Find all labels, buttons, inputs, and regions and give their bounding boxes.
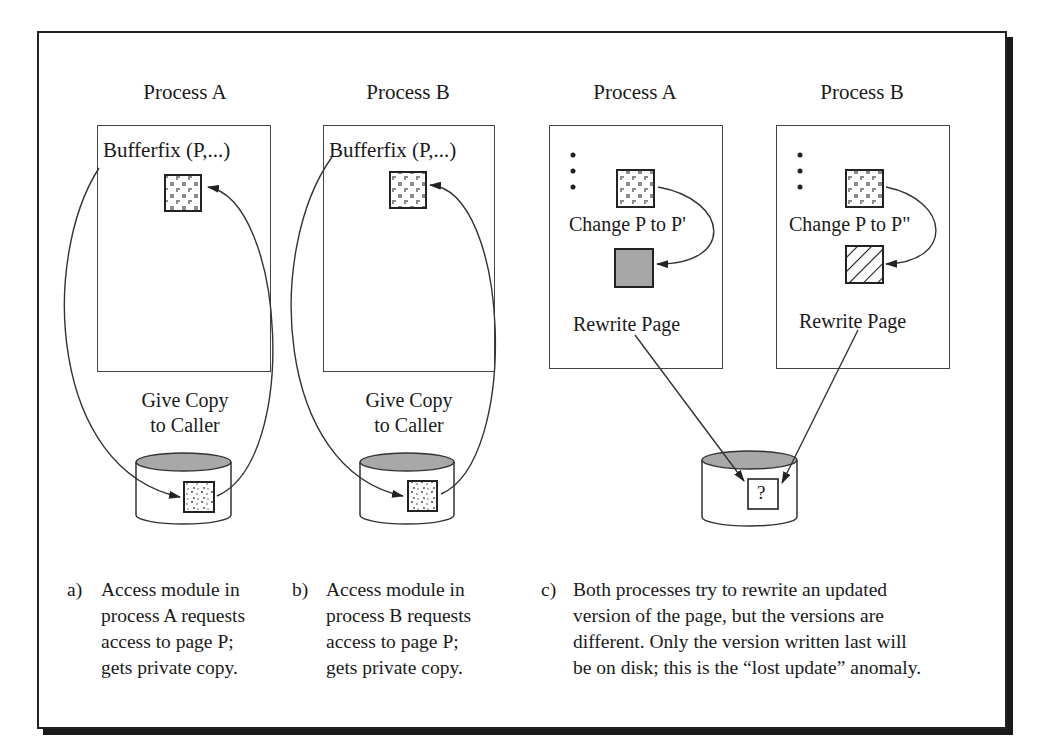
page-original-icon-a	[617, 170, 654, 207]
caption-line: Both processes try to rewrite an updated	[573, 577, 1001, 603]
caption-a-tag: a)	[67, 577, 82, 603]
page-copy-icon	[165, 175, 201, 211]
page-copy-icon	[390, 172, 426, 208]
caption-a: a) Access module in process A requests a…	[67, 577, 277, 681]
caption-b: b) Access module in process B requests a…	[292, 577, 502, 681]
disk-icon-b	[360, 453, 454, 524]
caption-c-tag: c)	[541, 577, 556, 603]
caption-line: version of the page, but the versions ar…	[573, 603, 1001, 629]
disk-icon-a	[136, 453, 231, 524]
caption-line: gets private copy.	[101, 655, 277, 681]
caption-line: access to page P;	[101, 629, 277, 655]
caption-b-tag: b)	[292, 577, 308, 603]
caption-line: process B requests	[326, 603, 502, 629]
caption-line: Access module in	[326, 577, 502, 603]
unknown-page-label: ?	[757, 482, 765, 504]
shared-disk-icon	[702, 451, 797, 526]
caption-line: process A requests	[101, 603, 277, 629]
caption-line: be on disk; this is the “lost update” an…	[573, 655, 1001, 681]
page-original-icon-b	[846, 170, 883, 207]
page-modified-hatched-icon	[846, 246, 883, 283]
caption-line: gets private copy.	[326, 655, 502, 681]
caption-line: different. Only the version written last…	[573, 629, 1001, 655]
caption-line: access to page P;	[326, 629, 502, 655]
caption-c: c) Both processes try to rewrite an upda…	[541, 577, 1001, 681]
page-modified-gray-icon	[615, 249, 653, 287]
caption-line: Access module in	[101, 577, 277, 603]
